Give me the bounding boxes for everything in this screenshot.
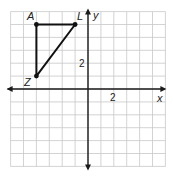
y-tick-label-2: 2 — [79, 58, 85, 69]
axes — [7, 9, 167, 171]
vertex-point-l — [73, 22, 78, 27]
labels: x y 2 2 A L Z — [23, 9, 163, 104]
vertex-point-a — [34, 22, 39, 27]
x-axis-label: x — [156, 92, 163, 104]
vertex-point-z — [34, 74, 39, 79]
y-axis-arrow-down-icon — [85, 164, 91, 170]
x-axis-arrow-left-icon — [7, 86, 13, 92]
vertex-label-l: L — [77, 10, 83, 22]
coordinate-plane: x y 2 2 A L Z — [0, 0, 173, 180]
x-tick-label-2: 2 — [110, 92, 116, 103]
vertex-label-a: A — [26, 10, 34, 22]
y-axis-label: y — [92, 9, 100, 21]
vertex-label-z: Z — [23, 76, 32, 88]
